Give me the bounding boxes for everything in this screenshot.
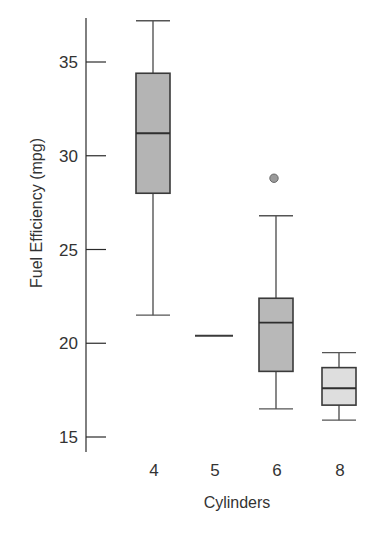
box-8-cylinders <box>322 353 356 421</box>
iqr-box <box>259 298 293 371</box>
x-category-label: 6 <box>272 461 281 480</box>
x-category-label: 5 <box>210 461 219 480</box>
outlier-point <box>270 174 278 182</box>
y-axis-title: Fuel Efficiency (mpg) <box>28 138 45 288</box>
y-tick-label: 20 <box>59 334 78 353</box>
y-tick-label: 30 <box>59 147 78 166</box>
x-category-label: 8 <box>335 461 344 480</box>
x-axis-labels: 4568 <box>149 461 344 480</box>
x-category-label: 4 <box>149 461 158 480</box>
iqr-box <box>322 368 356 406</box>
boxes-group <box>136 21 356 420</box>
y-axis: 1520253035 <box>59 18 106 452</box>
y-tick-label: 25 <box>59 241 78 260</box>
x-axis-title: Cylinders <box>204 494 271 511</box>
box-6-cylinders <box>259 174 293 409</box>
box-plot-chart: 1520253035 4568 Fuel Efficiency (mpg) Cy… <box>0 0 384 534</box>
y-tick-label: 35 <box>59 53 78 72</box>
box-4-cylinders <box>136 21 170 315</box>
y-tick-label: 15 <box>59 428 78 447</box>
